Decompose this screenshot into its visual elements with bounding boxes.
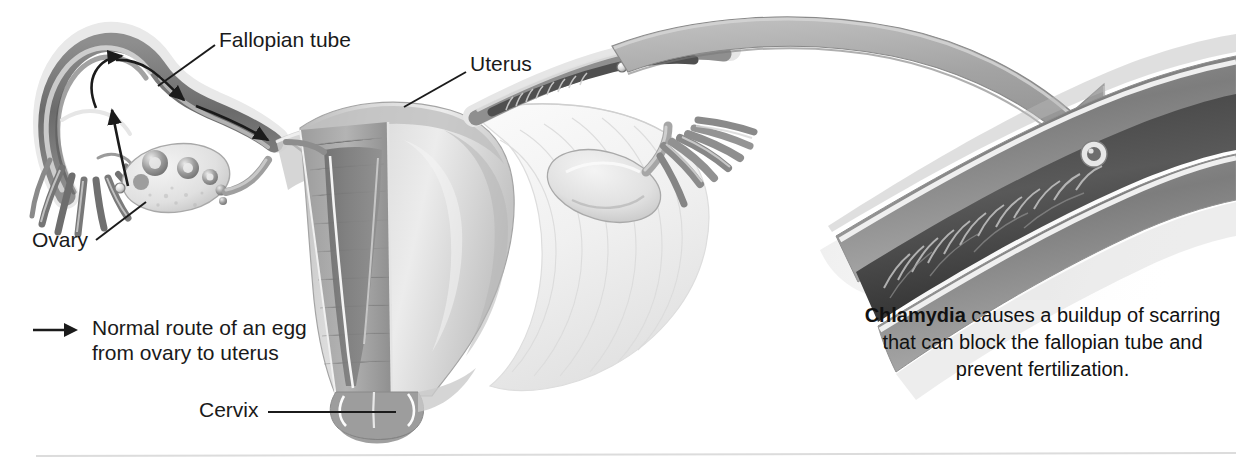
left-ovary [115, 137, 234, 219]
released-egg [115, 183, 125, 193]
legend-text: Normal route of an egg from ovary to ute… [92, 315, 307, 365]
legend-arrow-icon [33, 323, 78, 337]
label-fallopian-tube: Fallopian tube [219, 28, 351, 51]
caption-term: Chlamydia [865, 304, 966, 326]
label-ovary: Ovary [32, 228, 88, 251]
label-cervix: Cervix [199, 398, 259, 421]
label-uterus: Uterus [470, 52, 532, 75]
cervix [330, 392, 423, 444]
bottom-divider [36, 453, 1236, 456]
chlamydia-caption: Chlamydia causes a buildup of scarring t… [860, 302, 1225, 383]
trapped-egg [1081, 141, 1107, 167]
left-adnexa-group [32, 35, 276, 234]
leader-uterus [404, 72, 466, 107]
anatomy-illustration [0, 0, 1236, 469]
figure-container: Fallopian tube Uterus Ovary Cervix Norma… [0, 0, 1236, 469]
uterus-group [276, 102, 514, 443]
